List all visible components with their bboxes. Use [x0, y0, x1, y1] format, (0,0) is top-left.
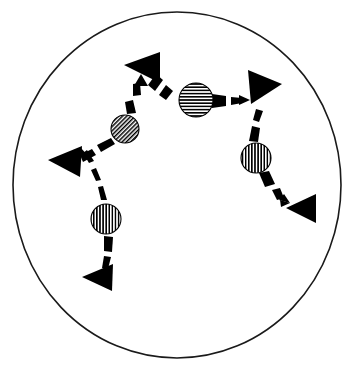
arrowhead-upper-right — [248, 70, 282, 104]
trail-dash — [104, 236, 113, 252]
enclosing-circle — [13, 12, 341, 358]
trail-dash — [125, 100, 136, 114]
arrowhead-left — [48, 146, 82, 177]
diagram-canvas — [0, 0, 354, 366]
trail-dash — [98, 186, 107, 200]
triangle-shape — [248, 70, 282, 104]
trail-dash — [159, 85, 173, 100]
ball-hatch — [89, 202, 124, 237]
trail-ball-upper-left-to-left — [80, 138, 115, 162]
triangle-shape — [82, 264, 113, 291]
ball-right — [239, 141, 274, 176]
arrowhead-bottom-left — [82, 264, 113, 291]
circle-outline — [13, 12, 341, 358]
trail-ball-upper-left-to-top — [125, 74, 148, 114]
trail-dash — [253, 109, 263, 122]
trail-dash — [249, 126, 260, 142]
ball-upper-left — [109, 113, 141, 145]
triangle-shape — [286, 194, 316, 223]
ball-hatch — [109, 113, 141, 145]
arrowhead-lower-right — [286, 194, 316, 223]
trail-ball-center-to-upper-right — [212, 94, 250, 108]
ball-center — [178, 82, 216, 120]
ball-lower-left — [89, 202, 124, 237]
trail-bottom-left-to-ball-lower-left — [102, 236, 113, 269]
trail-arrow-tip — [239, 95, 250, 105]
triangle-shape — [48, 146, 82, 177]
trail-dash — [97, 138, 115, 152]
trail-dash — [212, 94, 226, 108]
trail-dash — [259, 171, 275, 187]
trail-ball-right-to-lower-right — [259, 171, 290, 207]
ball-hatch — [239, 141, 274, 176]
trail-dash — [91, 168, 101, 181]
trail-upper-right-to-ball-right — [249, 109, 263, 142]
diagram-svg — [0, 0, 354, 366]
